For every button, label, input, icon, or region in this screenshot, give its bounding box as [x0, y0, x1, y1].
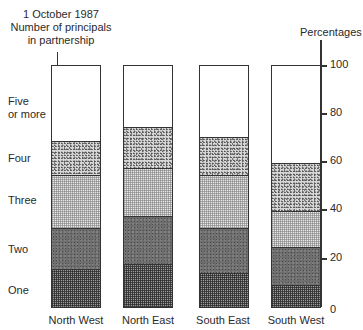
x-category-label: North West — [41, 314, 111, 326]
bar-segment-four — [200, 137, 248, 175]
legend-two: Two — [8, 243, 28, 256]
bar-segment-five-or-more — [272, 67, 320, 163]
bar-segment-two — [124, 216, 172, 264]
y-tick-label: 80 — [330, 106, 342, 118]
x-category-label: North East — [113, 314, 183, 326]
legend-four: Four — [8, 152, 31, 165]
y-tick-40 — [320, 209, 327, 211]
bar-north-east — [123, 65, 173, 308]
y-tick-80 — [320, 113, 327, 115]
bar-segment-one — [200, 273, 248, 307]
x-category-label: South West — [261, 314, 331, 326]
bar-segment-three — [124, 168, 172, 216]
y-axis-title: Percentages — [300, 26, 362, 38]
y-tick-label: 20 — [330, 251, 342, 263]
bar-segment-five-or-more — [124, 67, 172, 127]
bar-north-west — [51, 65, 101, 308]
y-tick-20 — [320, 258, 327, 260]
y-tick-60 — [320, 161, 327, 163]
bar-segment-five-or-more — [52, 67, 100, 141]
legend-three: Three — [8, 194, 37, 207]
bar-segment-four — [52, 141, 100, 175]
bar-segment-three — [272, 211, 320, 247]
bar-segment-four — [124, 127, 172, 168]
bar-segment-two — [200, 228, 248, 274]
y-tick-label: 60 — [330, 154, 342, 166]
legend-one: One — [8, 284, 29, 297]
bar-south-west — [271, 65, 321, 308]
title-pointer-line — [57, 52, 58, 65]
title-line: 1 October 1987 — [2, 8, 120, 21]
bar-segment-one — [272, 285, 320, 307]
bar-segment-one — [52, 269, 100, 307]
legend-text: Five — [8, 95, 46, 108]
x-category-label: South East — [188, 314, 258, 326]
bar-segment-three — [52, 175, 100, 228]
legend-five-or-more: Five or more — [8, 95, 46, 121]
bar-south-east — [199, 65, 249, 308]
bar-segment-one — [124, 264, 172, 307]
bar-segment-two — [272, 247, 320, 285]
legend-text: or more — [8, 108, 46, 121]
bar-segment-four — [272, 163, 320, 211]
y-tick-label: 40 — [330, 202, 342, 214]
y-tick-100 — [320, 65, 327, 67]
title-line: Number of principals — [2, 21, 120, 34]
bar-segment-three — [200, 175, 248, 228]
bar-segment-five-or-more — [200, 67, 248, 137]
title-line: in partnership — [2, 34, 120, 47]
bar-segment-two — [52, 228, 100, 269]
y-tick-label: 100 — [330, 58, 348, 70]
chart-title: 1 October 1987 Number of principals in p… — [2, 8, 120, 47]
